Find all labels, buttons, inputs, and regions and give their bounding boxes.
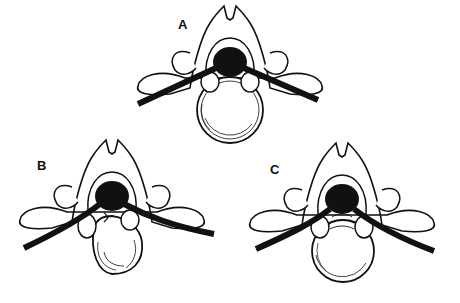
panel-a-label: A [178, 17, 187, 32]
panel-b-illustration [20, 140, 214, 274]
panel-c-label: C [270, 162, 279, 177]
panel-b-label: B [37, 158, 46, 173]
panel-a-illustration [138, 6, 323, 143]
vertebra-illustrations [0, 0, 460, 303]
